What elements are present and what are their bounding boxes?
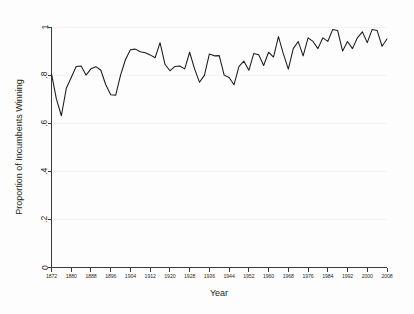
x-axis-title: Year [210, 288, 228, 298]
y-axis-title: Proportion of Incumbents Winning [14, 79, 24, 215]
chart-figure: 0.2.4.6.81 18721880188818961904191219201… [0, 0, 414, 314]
axis-titles-layer: Proportion of Incumbents Winning Year [0, 0, 414, 314]
